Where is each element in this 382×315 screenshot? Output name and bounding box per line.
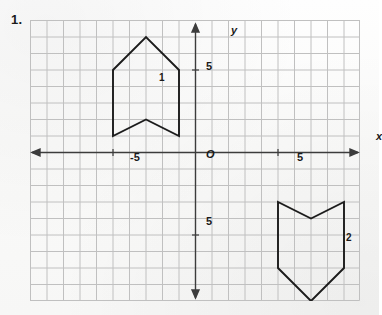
coordinate-grid-svg xyxy=(30,20,360,301)
coordinate-grid: y x O 5 5 -5 5 1 2 xyxy=(30,20,360,301)
y-axis-label: y xyxy=(231,24,237,36)
origin-label: O xyxy=(206,148,215,160)
axis-lines xyxy=(32,24,358,298)
shape-1-label: 1 xyxy=(159,72,165,83)
y-axis-arrow-up xyxy=(192,24,199,32)
y-axis-arrow-down xyxy=(192,290,199,298)
y-tick-label-5: 5 xyxy=(206,60,212,72)
x-tick-label-neg5: -5 xyxy=(130,151,140,163)
x-axis-arrow-right xyxy=(350,149,358,156)
x-axis-arrow-left xyxy=(32,149,40,156)
x-axis-label: x xyxy=(376,130,382,142)
problem-number: 1. xyxy=(11,12,22,27)
grid-lines xyxy=(30,20,360,301)
shape-2-label: 2 xyxy=(346,232,352,243)
y-tick-label-neg5: 5 xyxy=(206,215,212,227)
x-tick-label-5: 5 xyxy=(297,151,303,163)
